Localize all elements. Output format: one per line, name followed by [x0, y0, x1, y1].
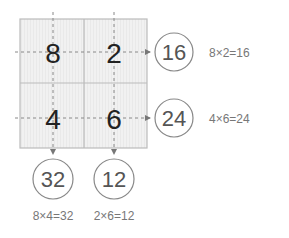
row-product-circle: 16 [155, 33, 193, 71]
grid-cell-value: 6 [106, 104, 122, 135]
multiplication-grid-diagram: 8 2 4 6 16 8×2=16 24 4×6=24 32 8×4=32 12… [0, 0, 289, 238]
col-equation: 2×6=12 [94, 209, 135, 223]
svg-text:24: 24 [162, 106, 186, 131]
row-equation: 4×6=24 [209, 112, 250, 126]
row-product-circle: 24 [155, 99, 193, 137]
svg-text:16: 16 [162, 40, 186, 65]
col-product-circle: 12 [94, 159, 134, 199]
number-grid [20, 19, 147, 148]
row-equation: 8×2=16 [209, 46, 250, 60]
svg-text:32: 32 [41, 167, 65, 192]
col-equation: 8×4=32 [33, 209, 74, 223]
svg-text:12: 12 [102, 167, 126, 192]
col-product-circle: 32 [33, 159, 73, 199]
grid-cell-value: 2 [106, 38, 122, 69]
grid-cell-value: 8 [45, 38, 61, 69]
grid-cell-value: 4 [45, 104, 61, 135]
